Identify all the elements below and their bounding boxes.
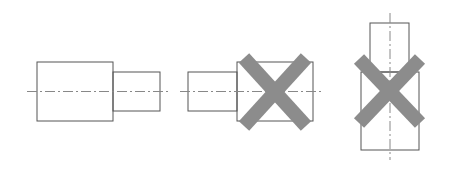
figure-incorrect-mirrored <box>180 58 323 126</box>
figure-correct <box>27 62 170 121</box>
diagram-canvas <box>0 0 453 170</box>
figure-incorrect-vertical <box>359 13 420 160</box>
small-cylinder <box>370 23 409 72</box>
